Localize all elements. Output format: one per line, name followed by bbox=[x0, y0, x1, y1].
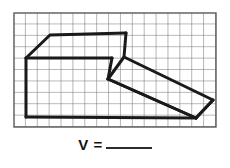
worksheet-figure-area: V = bbox=[0, 0, 230, 168]
prism-edge-left-vertical bbox=[26, 117, 196, 118]
answer-row: V = bbox=[0, 136, 230, 153]
volume-label: V = bbox=[78, 136, 102, 153]
volume-answer-blank[interactable] bbox=[106, 146, 152, 149]
